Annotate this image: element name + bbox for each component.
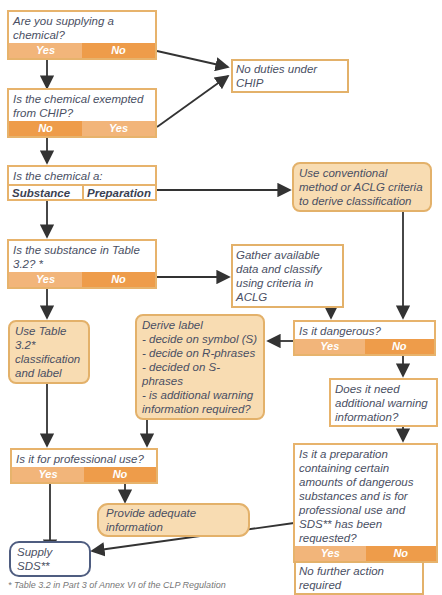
answer-no: No [365, 339, 435, 354]
answer-no: No [366, 546, 437, 561]
terminal-no-further-action: No further action required [294, 561, 424, 595]
answer-yes: Yes [82, 121, 155, 136]
footnote: * Table 3.2 in Part 3 of Annex VI of the… [8, 580, 226, 590]
action-use-table: Use Table 3.2* classification and label [8, 320, 90, 384]
terminal-no-duties: No duties under CHIP [231, 59, 349, 93]
question-chemical-type: Is the chemical a: Substance Preparation [7, 165, 157, 201]
action-gather-data: Gather available data and classify using… [231, 244, 344, 308]
action-conventional-method: Use conventional method or ACLG criteria… [292, 162, 432, 212]
option-preparation: Preparation [82, 184, 155, 199]
terminal-supply-sds: Supply SDS** [9, 541, 91, 577]
action-provide-information: Provide adequate information [97, 503, 250, 537]
answer-no: No [82, 43, 155, 58]
answer-yes: Yes [295, 546, 366, 561]
option-substance: Substance [9, 184, 82, 199]
question-preparation-sds: Is it a preparation containing certain a… [293, 443, 438, 563]
question-dangerous: Is it dangerous? Yes No [293, 320, 436, 356]
answer-yes: Yes [9, 43, 82, 58]
question-table-3-2: Is the substance in Table 3.2? * Yes No [7, 239, 157, 289]
question-supplying-chemical: Are you supplying a chemical? Yes No [7, 10, 157, 60]
answer-yes: Yes [9, 272, 82, 287]
answer-no: No [9, 121, 82, 136]
answer-no: No [82, 272, 155, 287]
question-professional-use: Is it for professional use? Yes No [10, 448, 158, 484]
answer-yes: Yes [295, 339, 365, 354]
question-exempted: Is the chemical exempted from CHIP? No Y… [7, 88, 157, 138]
answer-yes: Yes [12, 467, 84, 482]
action-derive-label: Derive label - decide on symbol (S) - de… [135, 314, 265, 420]
question-additional-warning: Does it need additional warning informat… [329, 378, 438, 427]
answer-no: No [84, 467, 156, 482]
